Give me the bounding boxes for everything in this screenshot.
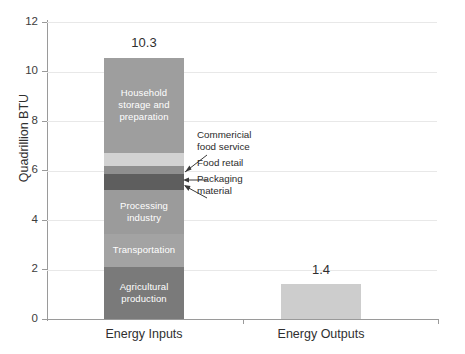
x-axis-label-energy-inputs: Energy Inputs	[64, 327, 224, 341]
segment-processing-industry[interactable]: Processing industry	[104, 190, 184, 235]
segment-label-processing-industry: Processing industry	[104, 200, 184, 224]
chart-figure: 12 10 8 6 4 2 0 Quadrillion BTU Househol…	[0, 0, 465, 354]
x-tick-mark-right	[438, 319, 439, 324]
segment-label-household: Household storage and preparation	[104, 87, 184, 123]
segment-label-transportation: Transportation	[111, 244, 177, 256]
y-tick-label-12: 12	[4, 16, 38, 28]
y-tick-label-2: 2	[4, 263, 38, 275]
bar-total-label-inputs: 10.3	[104, 35, 184, 50]
segment-energy-outputs[interactable]	[281, 284, 361, 319]
annotation-food-retail: Food retail	[197, 157, 243, 169]
segment-food-retail[interactable]	[104, 166, 184, 173]
segment-commercial-food-service[interactable]	[104, 153, 184, 167]
segment-household-storage-and-preparation[interactable]: Household storage and preparation	[104, 58, 184, 153]
bar-energy-inputs[interactable]: Household storage and preparation Proces…	[104, 22, 184, 319]
bar-total-label-outputs: 1.4	[281, 262, 361, 277]
annotation-packaging-material: Packaging material	[197, 173, 243, 197]
segment-agricultural-production[interactable]: Agricultural production	[104, 267, 184, 319]
x-axis-label-energy-outputs: Energy Outputs	[241, 327, 401, 341]
annotation-commercial-food-service: Commericial food service	[197, 129, 251, 153]
segment-packaging-material[interactable]	[104, 174, 184, 190]
figure-caption	[8, 344, 458, 354]
y-tick-label-0: 0	[4, 313, 38, 325]
y-axis-title: Quadrillion BTU	[17, 68, 31, 208]
plot-area: Household storage and preparation Proces…	[47, 22, 437, 319]
x-tick-mark-center	[243, 319, 244, 324]
y-tick-label-4: 4	[4, 214, 38, 226]
segment-transportation[interactable]: Transportation	[104, 234, 184, 266]
segment-label-agricultural-production: Agricultural production	[104, 281, 184, 305]
